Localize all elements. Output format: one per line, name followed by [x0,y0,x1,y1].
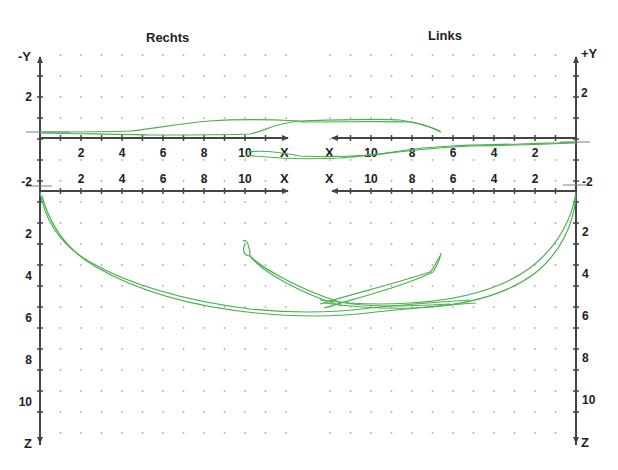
tick-label: 6 [450,146,457,160]
rechts-return-b [243,240,342,306]
tick-label: 2 [25,227,32,241]
tick-label: 8 [409,146,416,160]
tick-label: 8 [409,172,416,186]
chart-canvas: -Y +Y Z Z X X X X 2244668810101010886644… [0,0,618,470]
tick-label: 10 [19,395,33,409]
tick-label: 10 [364,172,378,186]
z-label-right: Z [581,435,589,450]
tick-label: 8 [582,351,589,365]
rechts-top-lower [40,121,300,135]
tick-label: 6 [160,146,167,160]
x-label-rechts-bottom: X [280,171,289,186]
tick-label: 2 [78,146,85,160]
tick-label: 8 [201,146,208,160]
tick-label: 4 [491,146,498,160]
tick-label: 2 [582,225,589,239]
rechts-top-upper [40,119,300,132]
pos-y-label: +Y [581,46,598,61]
x-label-links-bottom: X [325,171,334,186]
tick-label: 8 [25,353,32,367]
neg-y-label: -Y [18,49,31,64]
tick-label: -2 [21,175,32,189]
links-front-arc-a [320,192,576,304]
tick-label: 2 [25,90,32,104]
tick-label: 6 [160,172,167,186]
links-top-upper-a [300,119,440,131]
tick-label: 10 [238,172,252,186]
links-return-a [320,256,440,304]
links-top-upper-b [300,122,441,132]
tick-label: 10 [582,393,596,407]
tick-label: 4 [25,269,32,283]
tick-label: 2 [581,86,588,100]
links-return-b [324,253,441,308]
tick-label: 2 [532,146,539,160]
tick-label: 4 [582,267,589,281]
tick-label: -2 [582,175,593,189]
z-label-left: Z [24,436,32,451]
axis-ticks [37,76,579,412]
tick-label: 4 [119,146,126,160]
rechts-front-arc-a [40,192,470,312]
grid-dots [60,54,557,434]
tick-label: 10 [364,146,378,160]
tick-label: 2 [78,172,85,186]
tick-label: 2 [532,172,539,186]
tick-label: 10 [238,146,252,160]
tick-label: 6 [450,172,457,186]
rechts-front-arc-b [42,196,476,316]
tick-label: 6 [582,309,589,323]
tick-label: 4 [119,172,126,186]
tick-label: 4 [491,172,498,186]
tick-label: 8 [201,172,208,186]
tick-label: 6 [25,311,32,325]
